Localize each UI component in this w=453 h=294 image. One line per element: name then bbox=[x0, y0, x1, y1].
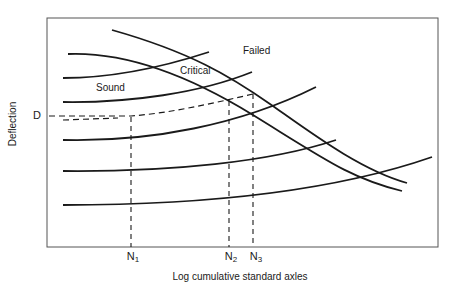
x-marker-n2: N2 bbox=[225, 250, 237, 264]
deflection-growth-curve-4 bbox=[63, 140, 336, 171]
region-label-critical: Critical bbox=[180, 65, 211, 76]
x-marker-n1: N1 bbox=[127, 250, 139, 264]
x-marker-n3: N3 bbox=[250, 250, 262, 264]
deflection-growth-curve-3 bbox=[63, 87, 316, 140]
deflection-marker-d: D bbox=[33, 109, 41, 121]
deflection-growth-curve-5 bbox=[63, 157, 432, 205]
region-label-sound: Sound bbox=[96, 82, 125, 93]
y-axis-label: Deflection bbox=[7, 102, 18, 146]
x-axis-label: Log cumulative standard axles bbox=[172, 271, 307, 282]
deflection-d-dashed-line-lower bbox=[63, 118, 118, 120]
region-label-failed: Failed bbox=[243, 45, 270, 56]
